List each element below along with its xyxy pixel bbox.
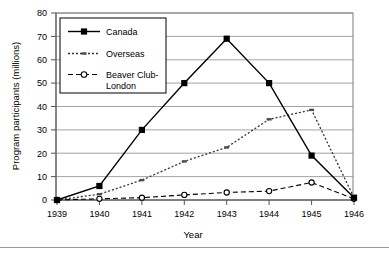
data-point: [309, 109, 314, 111]
data-point: [224, 190, 229, 195]
data-point: [224, 146, 229, 148]
y-tick-label: 80: [37, 8, 47, 18]
line-chart-svg: 80 70 60 50 40 30 20 10 0 1939 1940 1941: [0, 0, 389, 258]
y-tick-label: 0: [42, 195, 47, 205]
data-point: [97, 193, 102, 195]
y-tick-label: 20: [37, 149, 47, 159]
x-tick-label: 1945: [302, 209, 322, 219]
data-point: [139, 179, 144, 181]
data-point: [181, 80, 187, 86]
y-axis-tick-labels: 80 70 60 50 40 30 20 10 0: [37, 8, 47, 205]
x-tick-label: 1944: [259, 209, 279, 219]
data-point: [267, 118, 272, 120]
x-tick-label: 1940: [89, 209, 109, 219]
data-point: [309, 153, 315, 159]
data-point: [54, 197, 60, 203]
chart-legend: Canada Overseas Beaver Club- London: [60, 18, 166, 93]
x-tick-label: 1943: [217, 209, 237, 219]
y-tick-label: 60: [37, 55, 47, 65]
data-point: [96, 183, 102, 189]
data-point: [351, 195, 357, 201]
legend-marker-beaver-club-london: [81, 72, 87, 78]
data-point: [182, 192, 187, 197]
y-tick-label: 40: [37, 102, 47, 112]
data-point: [139, 127, 145, 133]
legend-label-canada: Canada: [106, 27, 138, 37]
x-tick-label: 1942: [174, 209, 194, 219]
legend-label-beaver-club-london-line2: London: [106, 81, 136, 91]
data-point: [139, 195, 144, 200]
y-tick-label: 70: [37, 32, 47, 42]
data-point: [266, 80, 272, 86]
y-tick-label: 30: [37, 125, 47, 135]
y-axis-title: Program participants (millions): [10, 42, 21, 170]
data-point: [309, 180, 314, 185]
data-point: [224, 36, 230, 42]
legend-marker-overseas: [82, 52, 87, 54]
x-tick-label: 1941: [132, 209, 152, 219]
chart-figure: 80 70 60 50 40 30 20 10 0 1939 1940 1941: [0, 0, 389, 258]
legend-label-overseas: Overseas: [106, 49, 145, 59]
y-tick-label: 50: [37, 78, 47, 88]
data-point: [182, 160, 187, 162]
legend-marker-canada: [81, 28, 87, 34]
x-axis-title: Year: [183, 229, 202, 240]
x-tick-label: 1946: [344, 209, 364, 219]
data-point: [97, 196, 102, 201]
x-tick-label: 1939: [47, 209, 67, 219]
data-point: [267, 189, 272, 194]
legend-label-beaver-club-london-line1: Beaver Club-: [106, 70, 159, 80]
y-tick-label: 10: [37, 172, 47, 182]
